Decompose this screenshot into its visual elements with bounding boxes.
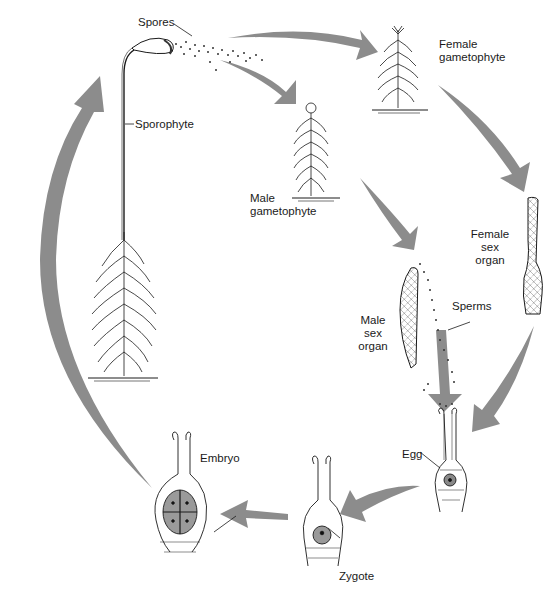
arrow-spores-to-male-gametophyte bbox=[220, 60, 296, 104]
moss-life-cycle-diagram: Spores Sporophyte Female gametophyte Mal… bbox=[0, 0, 560, 596]
female-sex-organ-illustration bbox=[523, 197, 542, 314]
embryo-archegonium-illustration bbox=[155, 432, 207, 552]
arrow-zygote-to-embryo bbox=[220, 500, 288, 528]
arrow-male-gametophyte-to-male-sex-organ bbox=[360, 178, 418, 250]
label-female-sex-organ: Female sex organ bbox=[470, 228, 510, 267]
sporophyte-leafy-shoot bbox=[88, 232, 158, 381]
label-male-sex-organ-line3: organ bbox=[354, 340, 392, 353]
egg-archegonium-illustration bbox=[435, 408, 467, 512]
label-zygote: Zygote bbox=[339, 570, 374, 583]
label-egg: Egg bbox=[402, 448, 422, 461]
label-male-sex-organ-line1: Male bbox=[354, 314, 392, 327]
label-embryo: Embryo bbox=[200, 452, 240, 465]
label-male-gametophyte: Male gametophyte bbox=[250, 192, 317, 218]
arrow-female-sex-organ-to-egg bbox=[472, 326, 534, 432]
female-gametophyte-illustration bbox=[372, 26, 428, 113]
label-male-sex-organ-line2: sex bbox=[354, 327, 392, 340]
spores-scatter bbox=[175, 41, 263, 71]
label-male-sex-organ: Male sex organ bbox=[354, 314, 392, 353]
label-sporophyte: Sporophyte bbox=[135, 118, 194, 131]
label-female-sex-organ-line1: Female bbox=[470, 228, 510, 241]
label-sperms: Sperms bbox=[452, 300, 492, 313]
arrow-spores-to-female-gametophyte bbox=[228, 30, 378, 60]
label-female-gametophyte: Female gametophyte bbox=[439, 38, 506, 64]
male-gametophyte-illustration bbox=[292, 103, 340, 201]
sporophyte-illustration bbox=[88, 38, 263, 381]
label-male-gametophyte-line2: gametophyte bbox=[250, 205, 317, 218]
label-female-sex-organ-line2: sex bbox=[470, 241, 510, 254]
male-sex-organ-illustration bbox=[400, 268, 418, 368]
diagram-artwork bbox=[0, 0, 560, 596]
arrow-sperms-to-egg bbox=[428, 330, 462, 412]
label-female-gametophyte-line2: gametophyte bbox=[439, 51, 506, 64]
label-spores: Spores bbox=[138, 16, 174, 29]
label-female-sex-organ-line3: organ bbox=[470, 254, 510, 267]
zygote-archegonium-illustration bbox=[303, 456, 343, 566]
arrow-female-gametophyte-to-female-sex-organ bbox=[438, 85, 530, 192]
label-male-gametophyte-line1: Male bbox=[250, 192, 317, 205]
arrow-egg-to-zygote bbox=[340, 486, 420, 522]
label-female-gametophyte-line1: Female bbox=[439, 38, 506, 51]
